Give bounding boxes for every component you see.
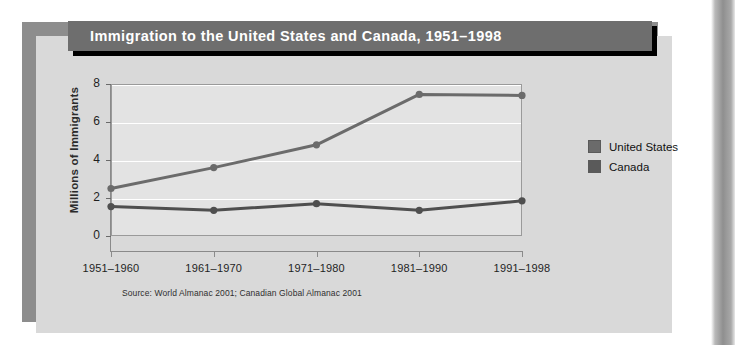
data-point — [416, 207, 423, 214]
x-axis-tick-label: 1951–1960 — [83, 262, 140, 274]
legend-item-label: United States — [609, 141, 678, 153]
x-axis-tick-mark — [419, 251, 420, 257]
x-axis-tick-label: 1981–1990 — [391, 262, 448, 274]
y-axis-tick-mark — [106, 122, 111, 123]
data-point — [210, 164, 217, 171]
x-axis-tick-mark — [522, 251, 523, 257]
page-gutter — [711, 0, 735, 345]
chart-plot-container: Millions of Immigrants 024681951–1960196… — [64, 70, 624, 270]
y-axis-tick-mark — [106, 236, 111, 237]
data-point — [107, 185, 114, 192]
x-axis-tick-mark — [214, 251, 215, 257]
legend-item[interactable]: United States — [588, 140, 708, 153]
data-point — [313, 200, 320, 207]
y-axis-tick-label: 6 — [78, 114, 100, 128]
source-note: Source: World Almanac 2001; Canadian Glo… — [122, 288, 362, 298]
legend-item-label: Canada — [609, 161, 649, 173]
y-axis-tick-mark — [106, 84, 111, 85]
legend-swatch-icon — [588, 140, 601, 153]
data-point — [313, 141, 320, 148]
y-axis-tick-mark — [106, 160, 111, 161]
data-point — [107, 203, 114, 210]
data-point — [210, 207, 217, 214]
data-point — [518, 197, 525, 204]
series-layer — [64, 70, 624, 270]
page-title: Immigration to the United States and Can… — [68, 28, 502, 44]
y-axis-tick-label: 0 — [78, 228, 100, 242]
y-axis-tick-label: 8 — [78, 76, 100, 90]
x-axis-tick-mark — [111, 251, 112, 257]
y-axis-tick-label: 2 — [78, 190, 100, 204]
x-axis-tick-label: 1961–1970 — [185, 262, 242, 274]
legend-swatch-icon — [588, 160, 601, 173]
data-point — [416, 91, 423, 98]
legend: United StatesCanada — [588, 140, 708, 180]
x-axis-tick-mark — [317, 251, 318, 257]
title-bar: Immigration to the United States and Can… — [68, 21, 652, 51]
x-axis-tick-label: 1971–1980 — [288, 262, 345, 274]
x-axis-tick-label: 1991–1998 — [494, 262, 551, 274]
legend-item[interactable]: Canada — [588, 160, 708, 173]
data-point — [518, 92, 525, 99]
y-axis-tick-label: 4 — [78, 152, 100, 166]
y-axis-tick-mark — [106, 198, 111, 199]
